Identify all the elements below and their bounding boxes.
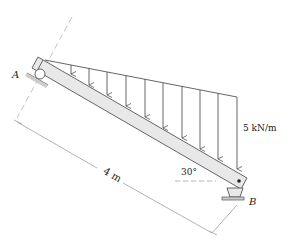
fixed-support-b bbox=[222, 188, 244, 200]
dimension-line bbox=[14, 120, 237, 235]
support-a-label: A bbox=[11, 69, 19, 80]
roller-support-a bbox=[25, 69, 48, 88]
pin-b-dot bbox=[237, 179, 241, 183]
length-label: 4 m bbox=[101, 165, 123, 184]
distributed-load bbox=[45, 60, 237, 169]
beam-diagram: 4 m A B 30° 5 kN/m bbox=[0, 0, 291, 242]
beam bbox=[32, 57, 247, 189]
support-b-label: B bbox=[248, 196, 256, 207]
angle-label: 30° bbox=[181, 167, 197, 177]
load-label: 5 kN/m bbox=[243, 123, 277, 133]
